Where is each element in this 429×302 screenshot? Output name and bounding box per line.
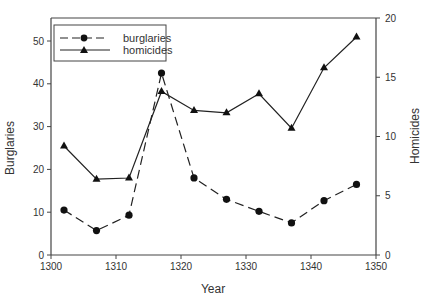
burglaries-point-icon xyxy=(190,174,197,181)
y-axis-homicides: 05101520 xyxy=(376,13,397,261)
homicides-point-icon xyxy=(353,32,361,39)
homicides-point-icon xyxy=(158,87,166,94)
y-tick-label: 50 xyxy=(33,36,45,47)
y2-tick-label: 5 xyxy=(385,190,391,201)
burglaries-point-icon xyxy=(353,181,360,188)
x-axis-label: Year xyxy=(201,282,225,296)
y-axis-label-burglaries: Burglaries xyxy=(3,121,17,175)
burglaries-point-icon xyxy=(60,206,67,213)
y2-tick-label: 15 xyxy=(385,72,397,83)
x-tick-label: 1310 xyxy=(105,261,128,272)
series-burglaries xyxy=(60,70,360,235)
y-axis-label-homicides: Homicides xyxy=(408,108,422,164)
burglaries-point-icon xyxy=(93,227,100,234)
burglaries-line xyxy=(64,73,357,231)
burglaries-point-icon xyxy=(125,212,132,219)
homicides-point-icon xyxy=(60,141,68,148)
x-tick-label: 1340 xyxy=(300,261,323,272)
legend-label-burglaries: burglaries xyxy=(123,32,172,44)
y2-tick-label: 10 xyxy=(385,131,397,142)
y-axis-burglaries: 01020304050 xyxy=(33,36,51,261)
y2-tick-label: 0 xyxy=(385,250,391,261)
legend-label-homicides: homicides xyxy=(123,44,173,56)
legend-circle-marker-icon xyxy=(81,35,88,42)
burglaries-point-icon xyxy=(320,197,327,204)
y-tick-label: 10 xyxy=(33,207,45,218)
y-tick-label: 20 xyxy=(33,164,45,175)
x-tick-label: 1330 xyxy=(235,261,258,272)
burglaries-point-icon xyxy=(223,196,230,203)
x-tick-label: 1300 xyxy=(40,261,63,272)
burglaries-point-icon xyxy=(255,208,262,215)
x-tick-label: 1320 xyxy=(170,261,193,272)
y-tick-label: 30 xyxy=(33,121,45,132)
dual-axis-line-chart: 130013101320133013401350 01020304050 051… xyxy=(0,0,429,302)
homicides-point-icon xyxy=(125,173,133,180)
x-axis: 130013101320133013401350 xyxy=(40,255,388,272)
burglaries-point-icon xyxy=(288,219,295,226)
legend: burglaries homicides xyxy=(54,25,173,61)
homicides-point-icon xyxy=(255,89,263,96)
y2-tick-label: 20 xyxy=(385,13,397,24)
x-tick-label: 1350 xyxy=(365,261,388,272)
y-tick-label: 40 xyxy=(33,78,45,89)
burglaries-point-icon xyxy=(158,70,165,77)
y-tick-label: 0 xyxy=(38,250,44,261)
